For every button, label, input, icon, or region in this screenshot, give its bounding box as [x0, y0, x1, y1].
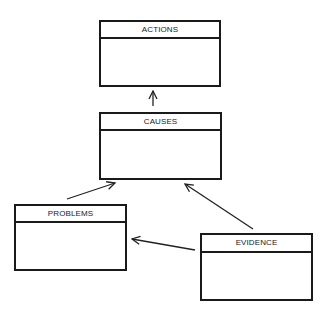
node-problems: PROBLEMS [14, 204, 127, 271]
node-causes: CAUSES [99, 112, 222, 180]
arrow-evidence-to-causes [185, 184, 253, 229]
arrow-problems-to-causes [67, 183, 115, 199]
node-causes-label: CAUSES [101, 114, 220, 131]
node-evidence: EVIDENCE [200, 233, 313, 301]
node-problems-label: PROBLEMS [16, 206, 125, 223]
node-evidence-label: EVIDENCE [202, 235, 311, 253]
arrow-evidence-to-problems [132, 239, 195, 250]
node-actions-label: ACTIONS [101, 22, 219, 39]
node-actions: ACTIONS [99, 20, 221, 87]
